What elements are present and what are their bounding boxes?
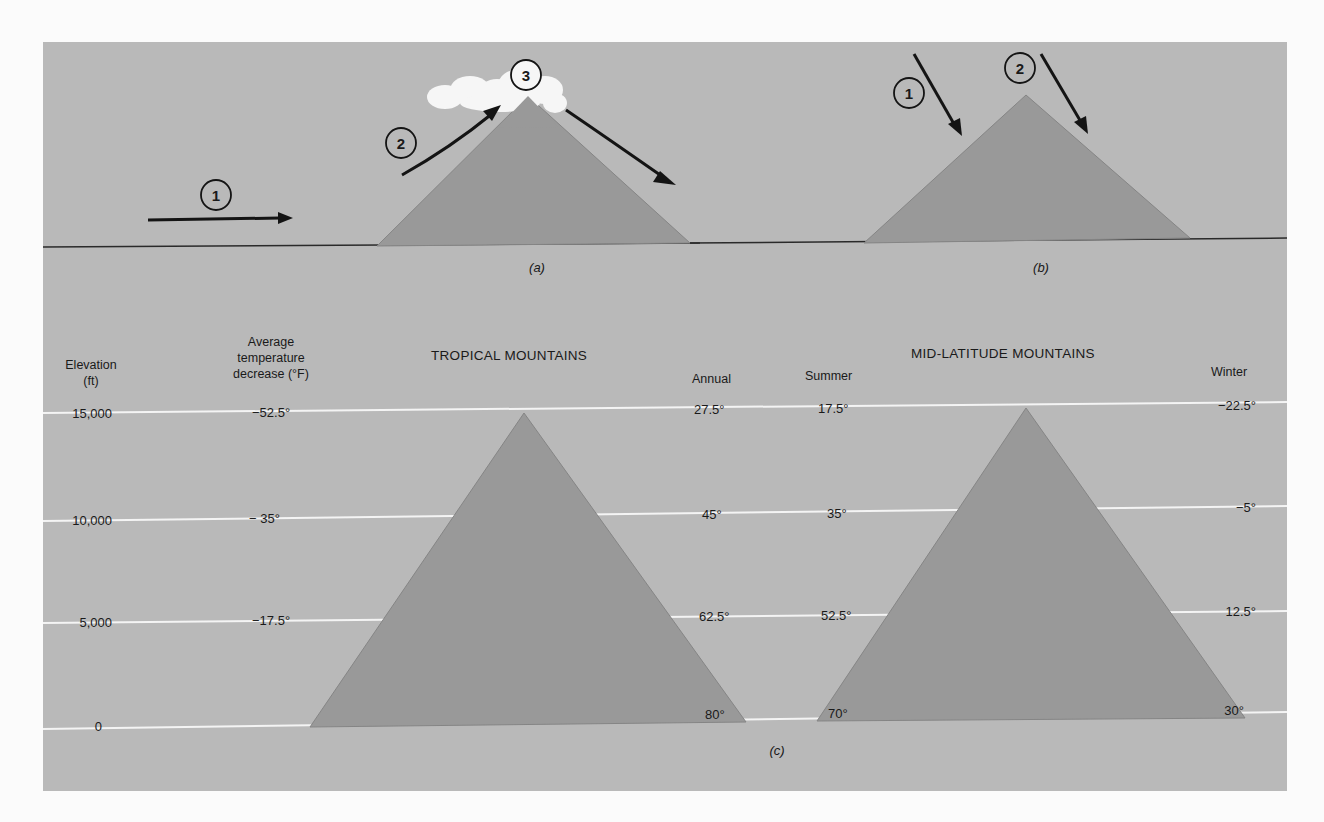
elevation-label: 10,000 — [72, 513, 112, 528]
decrease-value: − 35° — [249, 511, 280, 526]
caption-c: (c) — [769, 743, 784, 758]
annual-value: 80° — [705, 707, 725, 722]
decrease-value: −17.5° — [252, 613, 290, 628]
winter-value: −22.5° — [1218, 398, 1256, 413]
figure-canvas: 1 2 3 (a) 1 2 (b) — [0, 0, 1324, 822]
winter-value: 12.5° — [1225, 604, 1256, 619]
decrease-header: decrease (°F) — [233, 367, 309, 381]
annual-value: 45° — [702, 507, 722, 522]
svg-text:2: 2 — [1016, 60, 1024, 77]
tropical-title: TROPICAL MOUNTAINS — [431, 348, 587, 363]
column-winter: Winter — [1211, 365, 1247, 379]
midlatitude-title: MID-LATITUDE MOUNTAINS — [911, 346, 1095, 361]
elevation-header-unit: (ft) — [83, 374, 98, 388]
decrease-header: temperature — [237, 351, 304, 365]
elevation-header: Elevation — [65, 358, 116, 372]
elevation-label: 15,000 — [72, 406, 112, 421]
svg-text:1: 1 — [212, 187, 220, 204]
caption-b: (b) — [1033, 260, 1049, 275]
marker-3: 3 — [511, 60, 541, 90]
annual-value: 27.5° — [694, 402, 725, 417]
summer-value: 52.5° — [821, 608, 852, 623]
svg-text:2: 2 — [397, 135, 405, 152]
caption-a: (a) — [529, 260, 545, 275]
decrease-header: Average — [248, 335, 294, 349]
summer-value: 70° — [828, 706, 848, 721]
summer-value: 17.5° — [818, 401, 849, 416]
decrease-value: −52.5° — [252, 405, 290, 420]
winter-value: −5° — [1236, 500, 1256, 515]
annual-value: 62.5° — [699, 609, 730, 624]
elevation-label: 5,000 — [79, 615, 112, 630]
elevation-label: 0 — [95, 719, 102, 734]
svg-text:1: 1 — [905, 85, 913, 102]
column-summer: Summer — [805, 369, 852, 383]
summer-value: 35° — [827, 506, 847, 521]
svg-text:3: 3 — [522, 67, 530, 84]
winter-value: 30° — [1224, 703, 1244, 718]
column-annual: Annual — [692, 372, 731, 386]
